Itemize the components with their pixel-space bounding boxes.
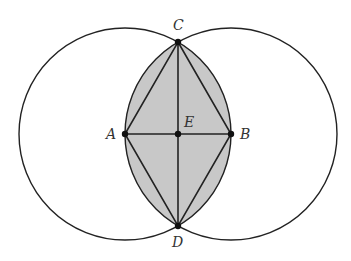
point-d xyxy=(175,223,181,229)
label-c: C xyxy=(173,17,184,33)
point-b xyxy=(228,131,234,137)
label-e: E xyxy=(183,114,194,130)
point-c xyxy=(175,39,181,45)
label-b: B xyxy=(239,126,250,142)
label-a: A xyxy=(104,126,116,142)
point-a xyxy=(122,131,128,137)
point-e xyxy=(175,131,181,137)
label-d: D xyxy=(171,234,183,250)
geometry-diagram: C A E B D xyxy=(0,0,351,261)
